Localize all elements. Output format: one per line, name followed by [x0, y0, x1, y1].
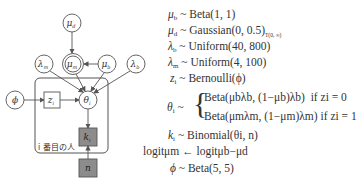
eq-z-i: zi ~ Bernoulli(ϕ) — [170, 73, 246, 86]
eq-lambda-m: λm ~ Uniform(4, 100) — [168, 57, 266, 70]
eq-k-i: ki ~ Binomial(θi, n) — [168, 130, 258, 143]
eq-theta-case1: Beta(μmλm, (1−μm)λm) if zi = 1 — [204, 111, 357, 123]
eq-logit: logitμm ← logitμb−μd — [143, 146, 248, 158]
eq-mu-d: μd ~ Gaussian(0, 0.5)T(0, ∞) — [168, 25, 281, 39]
eq-phi: ϕ ~ Beta(5, 5) — [170, 163, 234, 175]
eq-theta-i-lhs: θi ~ — [167, 102, 184, 115]
eq-mu-b: μb ~ Beta(1, 1) — [168, 9, 235, 22]
eq-lambda-b: λb ~ Uniform(40, 800) — [168, 41, 270, 54]
eq-theta-case0: Beta(μbλb, (1−μb)λb) if zi = 0 — [204, 92, 347, 104]
